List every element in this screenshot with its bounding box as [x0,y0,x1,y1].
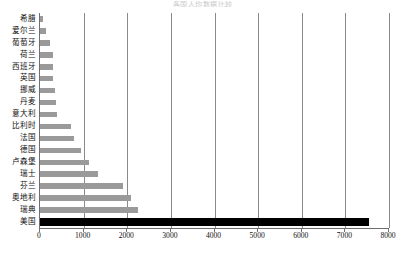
bar-葡萄牙 [40,40,50,46]
bar-瑞士 [40,171,98,177]
category-label-芬兰: 芬兰 [0,182,36,190]
bar-比利时 [40,124,71,130]
bar-意大利 [40,112,57,118]
bar-row [40,216,369,228]
x-tick-label-2000: 2000 [119,231,134,240]
bar-row [40,144,81,156]
x-tick-label-8000: 8000 [380,231,395,240]
bar-rows [40,13,389,228]
category-label-挪威: 挪威 [0,86,36,94]
bar-瑞典 [40,207,138,213]
category-label-意大利: 意大利 [0,110,36,118]
x-tick-label-4000: 4000 [206,231,221,240]
bar-美国 [40,218,369,225]
bar-row [40,25,46,37]
bar-奥地利 [40,195,131,201]
category-label-奥地利: 奥地利 [0,194,36,202]
bar-chart: 各国人均数据比较 希腊爱尔兰葡萄牙荷兰西班牙英国挪威丹麦意大利比利时法国德国卢森… [0,0,405,261]
gridline-8000 [389,13,390,228]
category-axis-labels: 希腊爱尔兰葡萄牙荷兰西班牙英国挪威丹麦意大利比利时法国德国卢森堡瑞士芬兰奥地利瑞… [0,13,37,228]
bar-row [40,180,123,192]
bar-row [40,168,98,180]
bar-row [40,37,50,49]
x-tick-label-7000: 7000 [337,231,352,240]
category-label-丹麦: 丹麦 [0,98,36,106]
bar-row [40,204,138,216]
bar-法国 [40,136,74,142]
bar-row [40,73,53,85]
category-label-爱尔兰: 爱尔兰 [0,27,36,35]
bar-德国 [40,148,81,154]
bar-卢森堡 [40,160,89,166]
bar-希腊 [40,16,43,22]
bar-爱尔兰 [40,28,46,34]
category-label-德国: 德国 [0,146,36,154]
category-label-法国: 法国 [0,134,36,142]
category-label-英国: 英国 [0,74,36,82]
category-label-比利时: 比利时 [0,122,36,130]
bar-丹麦 [40,100,56,106]
category-label-瑞士: 瑞士 [0,170,36,178]
bar-row [40,61,53,73]
bar-row [40,156,89,168]
category-label-荷兰: 荷兰 [0,51,36,59]
bar-荷兰 [40,52,53,58]
category-label-瑞典: 瑞典 [0,206,36,214]
bar-西班牙 [40,64,53,70]
chart-title: 各国人均数据比较 [0,0,405,7]
x-tick-label-6000: 6000 [293,231,308,240]
bar-芬兰 [40,183,123,189]
category-label-葡萄牙: 葡萄牙 [0,39,36,47]
x-tick-label-5000: 5000 [250,231,265,240]
plot-area [39,13,389,229]
category-label-西班牙: 西班牙 [0,63,36,71]
bar-英国 [40,76,53,82]
x-tick-label-3000: 3000 [162,231,177,240]
x-tick-label-0: 0 [37,231,41,240]
bar-row [40,13,43,25]
x-axis-tick-labels: 010002000300040005000600070008000 [0,231,405,245]
bar-row [40,85,55,97]
x-tick-label-1000: 1000 [75,231,90,240]
bar-row [40,121,71,133]
category-label-希腊: 希腊 [0,15,36,23]
bar-row [40,97,56,109]
bar-row [40,132,74,144]
bar-row [40,109,57,121]
category-label-美国: 美国 [0,218,36,226]
category-label-卢森堡: 卢森堡 [0,158,36,166]
bar-row [40,192,131,204]
bar-挪威 [40,88,55,94]
bar-row [40,49,53,61]
